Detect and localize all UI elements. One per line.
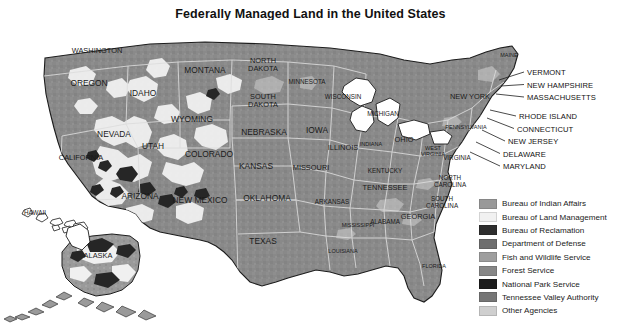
legend-label: Department of Defense	[502, 239, 586, 248]
callout-label-massachusetts: MASSACHUSETTS	[527, 93, 596, 102]
legend-row[interactable]: Tennessee Valley Authority	[479, 291, 619, 304]
map-page: Federally Managed Land in the United Sta…	[0, 0, 621, 326]
legend-row[interactable]: Bureau of Land Management	[479, 210, 619, 223]
legend-swatch	[479, 279, 497, 289]
legend-row[interactable]: Forest Service	[479, 264, 619, 277]
legend-label: Bureau of Indian Affairs	[502, 199, 586, 208]
legend-swatch	[479, 239, 497, 249]
legend-row[interactable]: Other Agencies	[479, 304, 619, 317]
callout-label-delaware: DELAWARE	[503, 149, 546, 158]
legend-row[interactable]: National Park Service	[479, 277, 619, 290]
legend-swatch	[479, 292, 497, 302]
callout-label-rhode-island: RHODE ISLAND	[519, 112, 577, 121]
callout-label-new-hampshire: NEW HAMPSHIRE	[527, 80, 593, 89]
map-legend: Bureau of Indian AffairsBureau of Land M…	[479, 197, 619, 318]
legend-swatch	[479, 212, 497, 222]
legend-swatch	[479, 252, 497, 262]
legend-swatch	[479, 266, 497, 276]
legend-label: Tennessee Valley Authority	[502, 293, 599, 302]
legend-label: Fish and Wildlife Service	[502, 253, 591, 262]
legend-row[interactable]: Bureau of Indian Affairs	[479, 197, 619, 210]
legend-row[interactable]: Bureau of Reclamation	[479, 224, 619, 237]
legend-swatch	[479, 225, 497, 235]
callout-label-vermont: VERMONT	[527, 68, 566, 77]
legend-row[interactable]: Fish and Wildlife Service	[479, 251, 619, 264]
legend-label: National Park Service	[502, 280, 580, 289]
legend-row[interactable]: Department of Defense	[479, 237, 619, 250]
legend-label: Forest Service	[502, 266, 554, 275]
callout-label-connecticut: CONNECTICUT	[517, 124, 573, 133]
callout-label-maryland: MARYLAND	[503, 162, 546, 171]
legend-label: Other Agencies	[502, 306, 557, 315]
legend-swatch	[479, 199, 497, 209]
callout-label-new-jersey: NEW JERSEY	[508, 137, 558, 146]
legend-label: Bureau of Land Management	[502, 213, 607, 222]
legend-label: Bureau of Reclamation	[502, 226, 584, 235]
legend-swatch	[479, 306, 497, 316]
page-title: Federally Managed Land in the United Sta…	[0, 7, 621, 21]
